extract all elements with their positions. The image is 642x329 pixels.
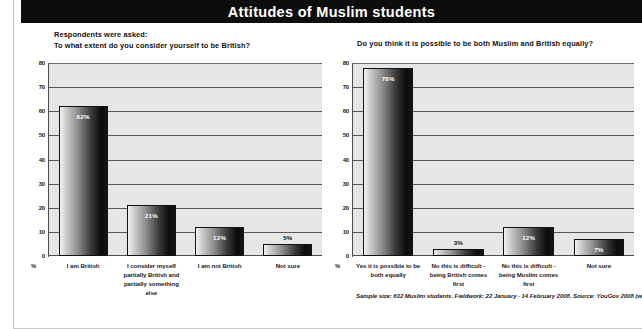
bar: 7% — [574, 239, 625, 256]
x-axis-labels-right: Yes it is possible to be both equallyNo … — [353, 261, 634, 288]
y-axis-unit-left: % — [31, 263, 36, 269]
bar-slot: 5% — [254, 63, 322, 256]
bar: 21% — [127, 205, 176, 256]
bar-slot: 7% — [564, 63, 634, 256]
y-tick-20: 20 — [39, 205, 45, 211]
x-axis-label: Yes it is possible to be both equally — [353, 261, 423, 288]
bar: 3% — [433, 249, 484, 256]
bar: 78% — [363, 68, 414, 256]
bar: 62% — [59, 106, 108, 256]
y-tick-80: 80 — [343, 60, 349, 66]
y-tick-30: 30 — [39, 181, 45, 187]
y-tick-0: 0 — [346, 253, 349, 259]
chart-right: 80706050403020100 % 78%3%12%7% Yes it is… — [334, 63, 634, 278]
x-axis-label: I am British — [49, 261, 117, 298]
question-left-line1: Respondents were asked: — [54, 30, 250, 41]
bar: 5% — [263, 244, 312, 256]
bars-left: 62%21%12%5% — [49, 63, 322, 256]
y-tick-60: 60 — [343, 108, 349, 114]
y-axis-unit-right: % — [335, 263, 340, 269]
bar-value-label: 21% — [128, 212, 175, 219]
y-tick-50: 50 — [39, 132, 45, 138]
x-axis-label: I am not British — [186, 261, 254, 298]
bar-value-label: 3% — [434, 239, 483, 246]
bar: 12% — [195, 227, 244, 256]
bar: 12% — [503, 227, 554, 256]
y-tick-80: 80 — [39, 60, 45, 66]
y-axis-left: 80706050403020100 — [30, 63, 47, 256]
left-border-rule — [13, 0, 14, 329]
y-tick-70: 70 — [39, 84, 45, 90]
y-tick-10: 10 — [39, 229, 45, 235]
page-title: Attitudes of Muslim students — [228, 4, 435, 20]
y-tick-40: 40 — [39, 157, 45, 163]
bar-slot: 3% — [423, 63, 493, 256]
title-banner: Attitudes of Muslim students — [21, 0, 642, 23]
x-axis-label: Not sure — [254, 261, 322, 298]
y-tick-50: 50 — [343, 132, 349, 138]
x-axis-label: No this is difficult - being British com… — [423, 261, 493, 288]
chart-left: 80706050403020100 % 62%21%12%5% I am Bri… — [30, 63, 322, 278]
y-tick-20: 20 — [343, 205, 349, 211]
bar-slot: 21% — [117, 63, 185, 256]
y-tick-70: 70 — [343, 84, 349, 90]
y-tick-10: 10 — [343, 229, 349, 235]
x-axis-label: Not sure — [564, 261, 634, 288]
y-tick-0: 0 — [42, 253, 45, 259]
bar-value-label: 5% — [264, 234, 311, 241]
question-right: Do you think it is possible to be both M… — [357, 39, 593, 50]
x-axis-label: I consider myself partially British and … — [117, 261, 185, 298]
bar-slot: 12% — [494, 63, 564, 256]
bar-value-label: 12% — [504, 234, 553, 241]
x-axis-labels-left: I am BritishI consider myself partially … — [49, 261, 322, 298]
question-left-line2: To what extent do you consider yourself … — [54, 41, 250, 52]
y-tick-30: 30 — [343, 181, 349, 187]
x-axis-label: No this is difficult - being Muslim come… — [494, 261, 564, 288]
bar-value-label: 62% — [60, 113, 107, 120]
y-axis-right: 80706050403020100 — [334, 63, 351, 256]
y-tick-40: 40 — [343, 157, 349, 163]
y-tick-60: 60 — [39, 108, 45, 114]
bar-value-label: 78% — [364, 75, 413, 82]
source-footnote: Sample size: 632 Muslim students. Fieldw… — [356, 292, 642, 299]
bar-slot: 78% — [353, 63, 423, 256]
bar-slot: 12% — [186, 63, 254, 256]
infographic-page: Attitudes of Muslim students Respondents… — [0, 0, 642, 329]
bar-slot: 62% — [49, 63, 117, 256]
bar-value-label: 7% — [575, 246, 624, 253]
bar-value-label: 12% — [196, 234, 243, 241]
question-left: Respondents were asked: To what extent d… — [54, 30, 250, 51]
bars-right: 78%3%12%7% — [353, 63, 634, 256]
